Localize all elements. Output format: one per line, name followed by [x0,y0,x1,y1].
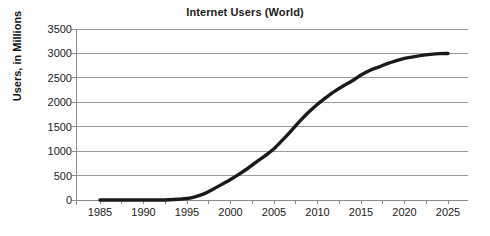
y-axis-tick-marks [72,29,76,200]
chart-container: Internet Users (World) Users, in Million… [0,0,490,236]
plot-area [0,0,490,236]
gridlines [76,29,468,200]
